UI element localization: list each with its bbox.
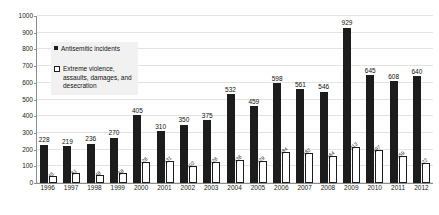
x-axis-tick-label: 1999	[106, 185, 129, 192]
bar-group: 350102	[177, 16, 200, 183]
x-axis-tick-label: 2000	[129, 185, 152, 192]
bar-value-label: 61	[71, 168, 78, 175]
bar-extreme-violence: 129	[259, 161, 267, 183]
x-axis-tick-label: 2005	[246, 185, 269, 192]
bar-value-label: 58	[117, 169, 124, 176]
x-axis-tick-label: 1997	[59, 185, 82, 192]
bar-extreme-violence: 159	[399, 156, 407, 183]
bar-group: 640122	[410, 16, 433, 183]
bar-antisemitic-incidents: 350	[180, 125, 188, 183]
x-axis-tick-label: 2001	[153, 185, 176, 192]
bar-extreme-violence: 197	[375, 150, 383, 183]
bar-antisemitic-incidents: 270	[110, 138, 118, 183]
bar-antisemitic-incidents: 236	[87, 144, 95, 183]
bar-value-label: 270	[109, 130, 120, 137]
x-axis-tick-label: 2003	[200, 185, 223, 192]
legend-entry: Extreme violence, assaults, damages, and…	[54, 65, 132, 91]
bar-value-label: 645	[365, 68, 376, 75]
filled-square-icon	[54, 46, 58, 50]
bar-group: 375126	[200, 16, 223, 183]
bar-value-label: 126	[139, 156, 149, 165]
x-axis-tick-label: 2002	[176, 185, 199, 192]
bar-value-label: 405	[132, 108, 143, 115]
x-axis-tick-label: 2006	[270, 185, 293, 192]
y-axis-tick-label: 600	[22, 80, 33, 87]
bar-value-label: 219	[62, 139, 73, 146]
y-axis-tick-label: 100	[22, 163, 33, 170]
top-clipped-strip	[0, 0, 439, 7]
bar-antisemitic-incidents: 598	[273, 83, 281, 183]
bar-group: 645197	[363, 16, 386, 183]
bar-value-label: 375	[202, 113, 213, 120]
bar-value-label: 102	[186, 160, 196, 169]
bar-chart: 01002003004005006007008009001000 2284521…	[0, 0, 439, 215]
y-axis-tick-label: 900	[22, 29, 33, 36]
x-axis-tick-label: 2004	[223, 185, 246, 192]
bar-antisemitic-incidents: 459	[250, 106, 258, 183]
bar-value-label: 236	[85, 136, 96, 143]
x-axis-tick-label: 2009	[340, 185, 363, 192]
x-axis-tick-label: 2010	[363, 185, 386, 192]
bar-value-label: 546	[318, 84, 329, 91]
bar-extreme-violence: 45	[49, 176, 57, 184]
bar-value-label: 184	[279, 147, 289, 156]
bar-value-label: 561	[295, 82, 306, 89]
bar-extreme-violence: 122	[422, 163, 430, 183]
bar-antisemitic-incidents: 228	[40, 145, 48, 183]
bar-antisemitic-incidents: 640	[413, 76, 421, 183]
bar-value-label: 350	[178, 117, 189, 124]
bar-value-label: 929	[342, 20, 353, 27]
bar-extreme-violence: 136	[236, 160, 244, 183]
y-axis-tick-label: 0	[29, 180, 33, 187]
bar-extreme-violence: 213	[352, 147, 360, 183]
bar-antisemitic-incidents: 929	[343, 28, 351, 183]
bar-extreme-violence: 184	[282, 152, 290, 183]
bar-extreme-violence: 126	[212, 162, 220, 183]
legend-entry: Antisemitic incidents	[54, 45, 132, 54]
x-axis-tick-label: 1996	[36, 185, 59, 192]
y-axis-tick-label: 700	[22, 63, 33, 70]
bar-antisemitic-incidents: 645	[366, 75, 374, 183]
bar-value-label: 459	[248, 99, 259, 106]
bar-value-label: 640	[411, 69, 422, 76]
legend-label: Antisemitic incidents	[61, 45, 120, 54]
x-axis-tick-label: 1998	[83, 185, 106, 192]
x-axis-tick-labels: 1996199719981999200020012002200320042005…	[36, 185, 433, 192]
bar-antisemitic-incidents: 405	[133, 115, 141, 183]
bar-extreme-violence: 58	[119, 173, 127, 183]
bar-antisemitic-incidents: 219	[63, 146, 71, 183]
bar-value-label: 45	[47, 171, 54, 178]
x-axis-tick-label: 2011	[386, 185, 409, 192]
bar-extreme-violence: 131	[166, 161, 174, 183]
bar-extreme-violence: 102	[189, 166, 197, 183]
bar-extreme-violence: 182	[305, 153, 313, 183]
bar-group: 546164	[317, 16, 340, 183]
bar-value-label: 126	[209, 156, 219, 165]
y-axis-tick-label: 500	[22, 96, 33, 103]
bar-value-label: 532	[225, 87, 236, 94]
y-axis-tick-mark	[34, 183, 37, 184]
bar-value-label: 48	[94, 170, 101, 177]
bar-extreme-violence: 164	[329, 156, 337, 183]
bar-group: 561182	[293, 16, 316, 183]
bar-group: 459129	[247, 16, 270, 183]
y-axis-tick-label: 800	[22, 46, 33, 53]
legend-label: Extreme violence, assaults, damages, and…	[63, 65, 132, 91]
x-axis-tick-label: 2012	[410, 185, 433, 192]
bar-group: 598184	[270, 16, 293, 183]
bar-value-label: 608	[388, 74, 399, 81]
bar-value-label: 182	[302, 147, 312, 156]
hollow-square-icon	[54, 66, 60, 72]
bar-extreme-violence: 126	[142, 162, 150, 183]
y-axis-tick-label: 400	[22, 113, 33, 120]
bar-value-label: 310	[155, 124, 166, 131]
x-axis-tick-label: 2008	[316, 185, 339, 192]
bar-group: 532136	[223, 16, 246, 183]
bar-extreme-violence: 48	[96, 175, 104, 183]
y-axis-tick-label: 300	[22, 130, 33, 137]
bar-antisemitic-incidents: 310	[157, 131, 165, 183]
bar-antisemitic-incidents: 546	[320, 92, 328, 183]
bar-value-label: 197	[372, 145, 382, 154]
chart-legend: Antisemitic incidentsExtreme violence, a…	[51, 42, 138, 95]
bar-antisemitic-incidents: 561	[296, 89, 304, 183]
